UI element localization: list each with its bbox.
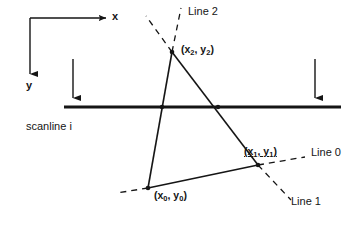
vertex-label-p0: (x0, y0) [154, 190, 187, 201]
vertex-dot-p0 [146, 186, 151, 191]
vertex-label-p2: (x2, y2) [181, 44, 214, 55]
scanline-intersection-left-dot [160, 105, 164, 109]
line1-ray [258, 165, 291, 200]
vertex-label-p0-text: (x0, y0) [154, 189, 187, 201]
vertex-label-p1-text: (x1, y1) [244, 145, 277, 157]
line-2-label: Line 2 [188, 6, 218, 17]
vertex-label-p2-text: (x2, y2) [181, 43, 214, 55]
line-0-label: Line 0 [311, 147, 341, 158]
vertex-label-p1: (x1, y1) [244, 146, 277, 157]
y-axis-label: y [26, 80, 32, 91]
scanline-label: scanline i [26, 121, 72, 132]
coordinate-axes [30, 18, 106, 74]
line2-left-ray [146, 16, 172, 52]
edge-p2-p0 [148, 52, 172, 188]
x-axis-label: x [112, 11, 118, 22]
edge-p0-p1 [148, 165, 258, 188]
line0-right-ray [258, 157, 305, 165]
scanline-intersection-right-dot [216, 105, 220, 109]
line-1-label: Line 1 [291, 196, 321, 207]
line2-dashed-extensions [146, 8, 181, 52]
vertex-dot-p2 [170, 50, 175, 55]
vertex-dot-p1 [256, 163, 261, 168]
polygon-edges [148, 52, 258, 188]
line0-left-ray [117, 188, 148, 193]
line2-right-ray [172, 8, 181, 52]
scanline-diagram: x y scanline i Line 2 Line 0 Line 1 (x2,… [0, 0, 364, 227]
